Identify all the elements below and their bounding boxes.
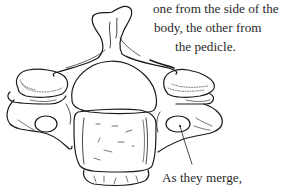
- book-page: one from the side of the body, the other…: [0, 0, 303, 190]
- caption-line: body, the other from: [153, 18, 279, 37]
- left-articular-facet: [8, 69, 68, 104]
- caption-line: one from the side of the: [153, 0, 279, 18]
- right-transverse-process: [157, 104, 223, 152]
- caption-top: one from the side of the body, the other…: [153, 0, 279, 56]
- left-transverse-foramen: [35, 116, 57, 132]
- caption-line: the pedicle.: [153, 37, 279, 56]
- right-articular-facet: [164, 69, 215, 104]
- vertebral-body: [74, 109, 156, 185]
- caption-line: As they merge,: [162, 170, 242, 185]
- vertebral-foramen: [72, 61, 157, 113]
- right-transverse-foramen: [166, 116, 190, 132]
- left-transverse-process: [7, 100, 72, 149]
- leader-dot: [179, 125, 181, 127]
- caption-bottom: As they merge,: [162, 168, 242, 187]
- leader-line: [180, 126, 192, 164]
